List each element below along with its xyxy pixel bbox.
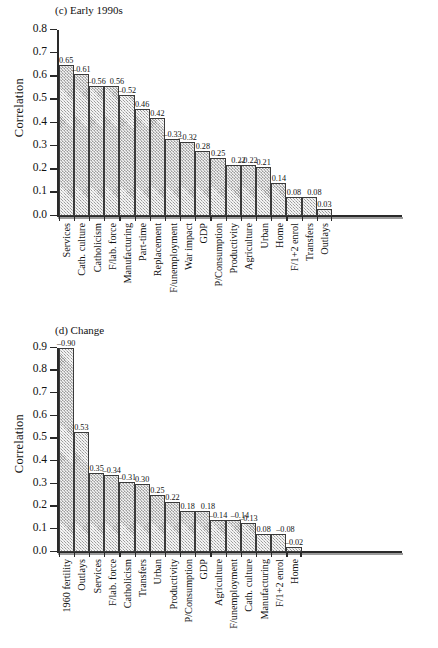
bar[interactable]: 0.08 [286, 197, 301, 216]
x-tick-label: F/lab. force [106, 223, 117, 270]
x-tick-mark [89, 552, 90, 557]
x-tick-mark [150, 552, 151, 557]
bar-slot: –0.33 [165, 30, 180, 216]
x-tick-mark [180, 216, 181, 221]
bar[interactable]: –0.32 [180, 142, 195, 216]
bar[interactable]: –0.90 [59, 348, 74, 552]
x-tick-mark [150, 216, 151, 221]
bar[interactable]: 0.25 [210, 158, 225, 216]
bar[interactable]: –0.13 [241, 523, 256, 552]
plot-area-c: 0.00.10.20.30.40.50.60.70.8 0.65–0.61–0.… [57, 30, 402, 216]
bar[interactable]: –0.34 [104, 475, 119, 552]
y-tick-label-d-4: 0.4 [33, 453, 47, 466]
y-tick-d-6: 0.6 [50, 415, 57, 416]
bar[interactable]: 0.25 [150, 495, 165, 552]
x-tick-mark [286, 552, 287, 557]
y-tick-label-c-4: 0.4 [33, 115, 47, 128]
x-tick-mark [241, 552, 242, 557]
bar[interactable]: 0.18 [180, 511, 195, 552]
bar-value-label: 0.25 [150, 486, 164, 495]
y-tick-c-0: 0.0 [50, 215, 57, 216]
x-tick-label: Urban [258, 223, 269, 248]
x-tick-label: Home [289, 559, 300, 584]
bar[interactable]: 0.56 [104, 86, 119, 216]
bar[interactable]: 0.22 [226, 165, 241, 216]
bar-slot: –0.61 [74, 30, 89, 216]
bar[interactable]: 0.35 [89, 473, 104, 552]
x-tick-label: F/1+2 enrol [289, 223, 300, 271]
x-tick-mark [195, 216, 196, 221]
bar[interactable]: –0.02 [286, 547, 301, 552]
bar-slot: –0.56 [89, 30, 104, 216]
bar[interactable]: 0.08 [302, 197, 317, 216]
bar-value-label: –0.52 [118, 86, 136, 95]
bar[interactable]: –0.22 [241, 165, 256, 216]
bar-value-label: 0.28 [196, 142, 210, 151]
x-tick-mark [256, 552, 257, 557]
bar[interactable]: –0.56 [89, 86, 104, 216]
x-tick-mark [210, 552, 211, 557]
x-tick-label: Replacement [152, 223, 163, 276]
y-tick-c-6: 0.6 [50, 75, 57, 76]
bar[interactable]: –0.52 [119, 95, 134, 216]
bar[interactable]: –0.61 [74, 74, 89, 216]
bar-slot: –0.13 [241, 348, 256, 552]
x-tick-label: Manufacturing [258, 559, 269, 620]
bar[interactable]: 0.53 [74, 432, 89, 552]
bar[interactable]: 0.03 [317, 209, 332, 216]
y-tick-d-8: 0.8 [50, 369, 57, 370]
bar-slot: 0.25 [210, 30, 225, 216]
bar-value-label: 0.30 [135, 475, 149, 484]
x-tick-label: F/1+2 enrol [273, 559, 284, 607]
x-tick-label: Productivity [228, 223, 239, 273]
bar-slot: 0.14 [271, 30, 286, 216]
bar[interactable]: –0.33 [165, 139, 180, 216]
bar[interactable]: 0.46 [135, 109, 150, 216]
bar[interactable]: 0.22 [165, 502, 180, 552]
x-tick-mark [210, 216, 211, 221]
x-tick-mark [89, 216, 90, 221]
bar[interactable]: –0.31 [119, 482, 134, 552]
bar[interactable]: 0.14 [271, 183, 286, 216]
bar[interactable]: 0.21 [256, 167, 271, 216]
bar-slot: 0.08 [286, 30, 301, 216]
x-tick-label: Outlays [319, 223, 330, 255]
bar-slot: –0.32 [180, 30, 195, 216]
bar-value-label: –0.02 [285, 538, 303, 547]
y-tick-label-c-5: 0.5 [33, 91, 47, 104]
bar[interactable]: –0.14 [226, 520, 241, 552]
y-tick-label-c-7: 0.7 [33, 45, 47, 58]
x-tick-label: Productivity [167, 559, 178, 609]
bar-value-label: 0.53 [74, 423, 88, 432]
bar-slot: –0.08 [271, 348, 286, 552]
x-axis-shadow-c [58, 217, 403, 219]
bar-slot: 0.08 [302, 30, 317, 216]
x-tick-mark [271, 552, 272, 557]
bar[interactable]: 0.30 [135, 484, 150, 552]
bar-value-label: 0.42 [150, 109, 164, 118]
bar-value-label: 0.03 [317, 200, 331, 209]
bar[interactable]: 0.65 [59, 65, 74, 216]
x-tick-label: Agriculture [213, 559, 224, 606]
x-tick-label: Services [91, 559, 102, 594]
x-tick-mark [74, 552, 75, 557]
x-tick-label: P/Consumption [182, 559, 193, 622]
x-tick-mark [59, 552, 60, 557]
bar[interactable]: 0.08 [256, 534, 271, 552]
bar-value-label: 0.65 [59, 56, 73, 65]
y-tick-label-c-3: 0.3 [33, 138, 47, 151]
bar-value-label: –0.22 [239, 156, 257, 165]
bar-slot: 0.30 [135, 348, 150, 552]
y-tick-d-5: 0.5 [50, 437, 57, 438]
y-tick-label-d-8: 0.8 [33, 362, 47, 375]
x-tick-label: Manufacturing [121, 223, 132, 284]
bar-value-label: 0.25 [211, 149, 225, 158]
y-tick-label-d-3: 0.3 [33, 476, 47, 489]
bar[interactable]: –0.14 [210, 520, 225, 552]
y-tick-d-2: 0.2 [50, 505, 57, 506]
x-tick-mark [271, 216, 272, 221]
y-tick-c-2: 0.2 [50, 168, 57, 169]
x-tick-mark [119, 216, 120, 221]
x-tick-mark [135, 552, 136, 557]
bar[interactable]: 0.28 [195, 151, 210, 216]
